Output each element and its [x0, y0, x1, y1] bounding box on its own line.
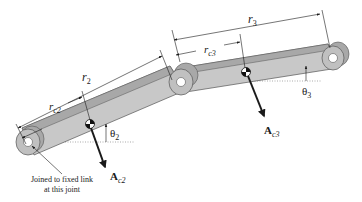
label-theta2: θ2 [110, 127, 119, 142]
label-rc3: rc3 [204, 43, 216, 58]
center-of-gravity-link2-icon [86, 120, 95, 129]
label-ac2: Ac2 [110, 170, 126, 185]
annotation-line-2: at this joint [44, 185, 81, 194]
extension-line-b [322, 10, 330, 48]
annotation-pointer [32, 146, 62, 174]
annotation-line-1: Joined to fixed link [31, 175, 93, 184]
extension-line-a-right [172, 30, 180, 62]
link-2 [22, 66, 186, 155]
dimension-r3 [174, 14, 320, 40]
acceleration-arrow-ac3 [248, 76, 264, 116]
dimension-rc3-left [176, 51, 196, 55]
label-r2: r2 [82, 70, 91, 86]
label-theta3: θ3 [302, 85, 311, 100]
dimension-rc3-right [224, 42, 240, 45]
center-of-gravity-link3-icon [242, 68, 251, 77]
label-ac3: Ac3 [264, 124, 280, 139]
acceleration-arrow-ac2 [91, 128, 105, 167]
label-r3: r3 [248, 12, 257, 28]
label-rc2: rc2 [49, 100, 61, 115]
dimension-rc2-right [68, 97, 82, 103]
linkage-diagram: r2 rc2 r3 rc3 θ2 θ3 Ac2 Ac3 Joined to fi… [0, 0, 362, 202]
